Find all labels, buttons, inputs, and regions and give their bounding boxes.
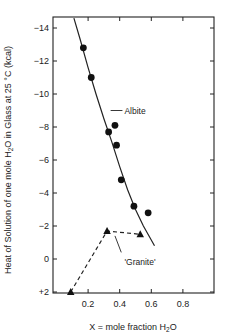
y-tick-label: −8	[39, 122, 49, 132]
series-layer	[67, 18, 155, 295]
triangle-marker	[67, 288, 75, 295]
granite-label: 'Granite'	[124, 257, 155, 267]
x-tick-label: 0.4	[113, 299, 126, 309]
x-tick-label: 0.8	[177, 299, 190, 309]
circle-marker	[113, 142, 120, 149]
circle-marker	[112, 122, 119, 129]
y-axis-ticks: −14−12−10−8−6−4−20+2	[34, 23, 214, 297]
y-tick-label: −12	[34, 56, 49, 66]
y-tick-label: −2	[39, 221, 49, 231]
circle-marker	[145, 209, 152, 216]
granite-leader-line	[115, 236, 121, 253]
y-axis-title: Heat of Solution of one mole H2O in Glas…	[3, 46, 14, 274]
chart: −14−12−10−8−6−4−20+2 0.20.40.60.8 Albite…	[0, 0, 231, 334]
annotations: Albite'Granite'	[111, 106, 156, 268]
y-tick-label: −14	[34, 23, 49, 33]
y-tick-label: 0	[44, 254, 49, 264]
y-tick-label: −4	[39, 188, 49, 198]
plot-frame	[53, 17, 214, 293]
albite-label: Albite	[124, 106, 146, 116]
x-tick-label: 0.2	[82, 299, 95, 309]
circle-marker	[105, 129, 112, 136]
x-tick-label: 0.6	[145, 299, 158, 309]
albite-fit-curve	[74, 18, 155, 246]
series-albite	[74, 18, 155, 246]
circle-marker	[118, 176, 125, 183]
circle-marker	[131, 203, 138, 210]
x-axis-title: X = mole fraction H2O	[89, 322, 176, 333]
y-tick-label: +2	[39, 287, 49, 297]
y-tick-label: −10	[34, 89, 49, 99]
triangle-marker	[103, 227, 111, 234]
circle-marker	[88, 74, 95, 81]
circle-marker	[80, 44, 87, 51]
y-tick-label: −6	[39, 155, 49, 165]
